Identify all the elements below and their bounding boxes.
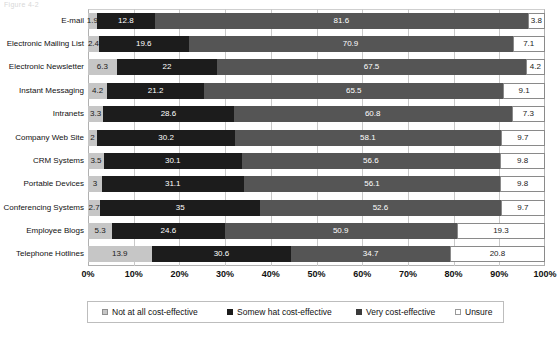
bar-segment-unsure[interactable]: 19.3 xyxy=(457,223,545,239)
bar-segment-somewhat[interactable]: 24.6 xyxy=(112,223,224,239)
chart-legend: Not at all cost-effectiveSomew hat cost-… xyxy=(87,301,504,323)
category-label: Conferencing Systems xyxy=(0,203,84,212)
bar-row[interactable]: 5.324.650.919.3 xyxy=(88,223,545,239)
bar-segment-somewhat[interactable]: 22 xyxy=(117,59,218,75)
bar-row[interactable]: 3.530.156.69.8 xyxy=(88,153,545,169)
x-axis-tick: 80% xyxy=(434,268,474,280)
bar-row[interactable]: 1.912.881.63.8 xyxy=(88,13,545,29)
bar-segment-somewhat[interactable]: 30.1 xyxy=(104,153,242,169)
bar-segment-value: 60.8 xyxy=(365,110,381,118)
bar-segment-value: 20.8 xyxy=(490,250,506,258)
bar-segment-notatall[interactable]: 13.9 xyxy=(88,246,152,262)
bar-segment-value: 65.5 xyxy=(346,87,362,95)
bar-segment-unsure[interactable]: 9.1 xyxy=(503,83,545,99)
bar-segment-value: 31.1 xyxy=(165,180,181,188)
bar-segment-very[interactable]: 56.1 xyxy=(244,176,500,192)
bar-segment-value: 4.2 xyxy=(92,87,103,95)
bar-segment-value: 4.2 xyxy=(530,63,541,71)
bar-segment-somewhat[interactable]: 31.1 xyxy=(102,176,244,192)
bar-segment-value: 30.1 xyxy=(165,157,181,165)
bar-segment-unsure[interactable]: 9.7 xyxy=(501,130,545,146)
bar-segment-somewhat[interactable]: 35 xyxy=(100,200,260,216)
x-axis-tick: 10% xyxy=(114,268,154,280)
bar-segment-value: 2 xyxy=(90,134,94,142)
bar-segment-very[interactable]: 34.7 xyxy=(291,246,450,262)
bar-row[interactable]: 331.156.19.8 xyxy=(88,176,545,192)
bar-segment-value: 67.5 xyxy=(364,63,380,71)
bar-segment-value: 35 xyxy=(176,204,185,212)
x-axis-tick: 40% xyxy=(251,268,291,280)
bar-segment-value: 28.6 xyxy=(161,110,177,118)
bar-segment-somewhat[interactable]: 21.2 xyxy=(107,83,204,99)
bar-segment-unsure[interactable]: 20.8 xyxy=(450,246,545,262)
bar-segment-very[interactable]: 60.8 xyxy=(234,106,512,122)
bar-row[interactable]: 3.328.660.87.3 xyxy=(88,106,545,122)
bar-segment-notatall[interactable]: 3.5 xyxy=(88,153,104,169)
bar-segment-unsure[interactable]: 9.8 xyxy=(500,176,545,192)
bar-segment-notatall[interactable]: 3.3 xyxy=(88,106,103,122)
bar-segment-somewhat[interactable]: 30.2 xyxy=(97,130,235,146)
bar-segment-value: 2.7 xyxy=(89,204,100,212)
category-label: Telephone Hotlines xyxy=(0,249,84,258)
category-label: Instant Messaging xyxy=(0,86,84,95)
bar-segment-somewhat[interactable]: 28.6 xyxy=(103,106,234,122)
x-axis-tick: 70% xyxy=(388,268,428,280)
bar-segment-value: 9.7 xyxy=(517,204,528,212)
category-label: CRM Systems xyxy=(0,156,84,165)
bar-segment-very[interactable]: 65.5 xyxy=(204,83,503,99)
legend-item[interactable]: Not at all cost-effective xyxy=(102,307,198,317)
bar-segment-somewhat[interactable]: 30.6 xyxy=(152,246,292,262)
bar-segment-notatall[interactable]: 5.3 xyxy=(88,223,112,239)
category-label: Intranets xyxy=(0,109,84,118)
category-label: Portable Devices xyxy=(0,179,84,188)
bar-segment-notatall[interactable]: 6.3 xyxy=(88,59,117,75)
bar-segment-notatall[interactable]: 4.2 xyxy=(88,83,107,99)
bar-segment-notatall[interactable]: 1.9 xyxy=(88,13,97,29)
bar-segment-value: 34.7 xyxy=(363,250,379,258)
bar-row[interactable]: 2.419.670.97.1 xyxy=(88,36,545,52)
category-label: Company Web Site xyxy=(0,133,84,142)
bar-segment-unsure[interactable]: 7.1 xyxy=(513,36,545,52)
bar-segment-unsure[interactable]: 4.2 xyxy=(526,59,545,75)
bar-segment-notatall[interactable]: 3 xyxy=(88,176,102,192)
bar-segment-notatall[interactable]: 2 xyxy=(88,130,97,146)
bar-segment-value: 56.6 xyxy=(363,157,379,165)
bar-segment-value: 9.8 xyxy=(517,157,528,165)
x-axis-tick: 90% xyxy=(479,268,519,280)
legend-label: Somew hat cost-effective xyxy=(237,307,332,317)
x-axis-tick: 30% xyxy=(205,268,245,280)
bar-row[interactable]: 13.930.634.720.8 xyxy=(88,246,545,262)
bar-row[interactable]: 2.73552.69.7 xyxy=(88,200,545,216)
x-axis-tick: 60% xyxy=(342,268,382,280)
bar-segment-value: 22 xyxy=(163,63,172,71)
legend-swatch-notatall xyxy=(102,309,108,315)
bar-row[interactable]: 230.258.19.7 xyxy=(88,130,545,146)
x-axis-tick: 100% xyxy=(525,268,557,280)
legend-item[interactable]: Very cost-effective xyxy=(356,307,435,317)
bar-segment-value: 7.1 xyxy=(523,40,534,48)
bar-segment-very[interactable]: 81.6 xyxy=(155,13,528,29)
bar-segment-notatall[interactable]: 2.7 xyxy=(88,200,100,216)
bar-segment-unsure[interactable]: 7.3 xyxy=(512,106,545,122)
bar-segment-very[interactable]: 70.9 xyxy=(189,36,513,52)
bar-segment-value: 13.9 xyxy=(112,250,128,258)
bar-segment-very[interactable]: 67.5 xyxy=(217,59,525,75)
bar-segment-somewhat[interactable]: 19.6 xyxy=(99,36,189,52)
bar-segment-value: 9.7 xyxy=(517,134,528,142)
bar-segment-notatall[interactable]: 2.4 xyxy=(88,36,99,52)
bar-row[interactable]: 4.221.265.59.1 xyxy=(88,83,545,99)
category-label: Employee Blogs xyxy=(0,226,84,235)
legend-item[interactable]: Unsure xyxy=(455,307,492,317)
bar-segment-unsure[interactable]: 9.8 xyxy=(500,153,545,169)
chart-title: Figure 4-2 xyxy=(4,0,204,9)
bar-segment-very[interactable]: 56.6 xyxy=(242,153,501,169)
bar-segment-value: 56.1 xyxy=(364,180,380,188)
legend-item[interactable]: Somew hat cost-effective xyxy=(227,307,332,317)
bar-segment-somewhat[interactable]: 12.8 xyxy=(97,13,155,29)
bar-row[interactable]: 6.32267.54.2 xyxy=(88,59,545,75)
bar-segment-very[interactable]: 58.1 xyxy=(235,130,501,146)
bar-segment-unsure[interactable]: 3.8 xyxy=(528,13,545,29)
bar-segment-unsure[interactable]: 9.7 xyxy=(501,200,545,216)
bar-segment-very[interactable]: 52.6 xyxy=(260,200,500,216)
bar-segment-very[interactable]: 50.9 xyxy=(225,223,457,239)
